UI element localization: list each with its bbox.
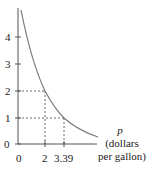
x-axis-label-units: (dollars (105, 137, 139, 150)
x-tick-label: 3.39 (54, 152, 74, 164)
x-tick-label: 2 (42, 152, 48, 164)
x-axis-label-units: per gallon) (98, 150, 146, 163)
y-tick-label: 0 (4, 138, 10, 150)
y-tick-label: 1 (5, 112, 11, 124)
chart: 0 1 2 3 4 0 2 3.39 p (dollars per gallon… (0, 0, 150, 171)
y-tick-label: 2 (5, 85, 11, 97)
x-axis-label-var: p (116, 124, 123, 136)
y-tick-label: 4 (5, 31, 11, 43)
dashed-guides (18, 91, 64, 144)
x-tick-label: 0 (16, 152, 22, 164)
y-tick-label: 3 (5, 58, 11, 70)
